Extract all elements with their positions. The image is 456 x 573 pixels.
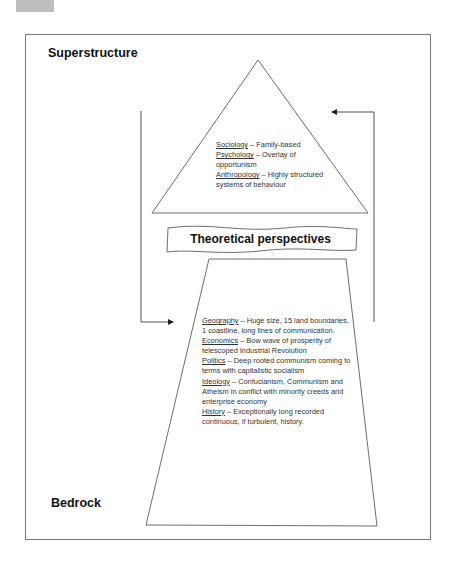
bedrock-item: Ideology – Confucianism, Communism and A…	[202, 377, 352, 407]
bedrock-item: Geography – Huge size, 15 land boundarie…	[202, 316, 352, 336]
superstructure-text: Sociology – Family-based Psychology – Ov…	[216, 140, 331, 190]
right-feedback-arrow	[332, 112, 374, 322]
banner-label: Theoretical perspectives	[158, 232, 363, 246]
superstructure-item: Anthropology – Highly structured systems…	[216, 170, 331, 190]
bedrock-item: Politics – Deep rooted communism coming …	[202, 356, 352, 376]
superstructure-item: Psychology – Overlay of opportunism	[216, 150, 331, 170]
bedrock-item: Economics – Bow wave of prosperity of te…	[202, 336, 352, 356]
bedrock-text: Geography – Huge size, 15 land boundarie…	[202, 316, 352, 427]
left-feedback-arrow	[141, 111, 173, 322]
superstructure-item: Sociology – Family-based	[216, 140, 331, 150]
diagram-shapes	[0, 0, 456, 573]
bedrock-item: History – Exceptionally long recorded co…	[202, 407, 352, 427]
bedrock-label: Bedrock	[51, 496, 101, 510]
superstructure-label: Superstructure	[48, 46, 138, 60]
